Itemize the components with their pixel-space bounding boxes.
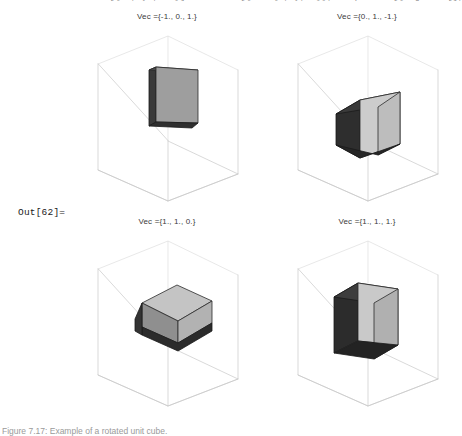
cube-3	[334, 283, 398, 359]
plot-3d-0[interactable]	[72, 22, 262, 212]
cube-0	[149, 67, 198, 128]
figure-caption-clipped: Figure 7.17: Example of a rotated unit c…	[0, 427, 462, 436]
graphics-panel-2[interactable]: Vec ={1., 1., 0.}	[72, 217, 262, 417]
graphics-panel-1[interactable]: Vec ={0., 1., -1.}	[272, 12, 462, 212]
plot-3d-2[interactable]	[72, 227, 262, 417]
figure-caption-text: Figure 7.17: Example of a rotated unit c…	[0, 427, 462, 436]
graphics-panel-3[interactable]: Vec ={1., 1., 1.}	[272, 217, 462, 417]
cube-2	[135, 285, 212, 351]
panel-title-3: Vec ={1., 1., 1.}	[272, 217, 462, 227]
graphics-panel-grid: Vec ={-1., 0., 1.}	[0, 0, 462, 420]
plot-3d-3[interactable]	[272, 227, 462, 417]
graphics-panel-0[interactable]: Vec ={-1., 0., 1.}	[72, 12, 262, 212]
panel-title-2: Vec ={1., 1., 0.}	[72, 217, 262, 227]
panel-title-1: Vec ={0., 1., -1.}	[272, 12, 462, 22]
cube-1	[336, 92, 400, 158]
plot-3d-1[interactable]	[272, 22, 462, 212]
panel-title-0: Vec ={-1., 0., 1.}	[72, 12, 262, 22]
